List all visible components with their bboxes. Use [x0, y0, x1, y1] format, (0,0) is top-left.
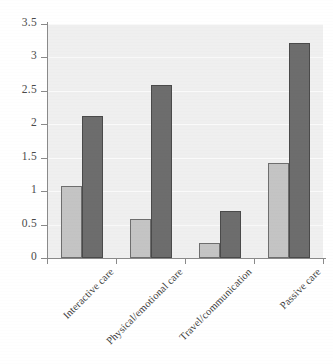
- y-axis-tick: [41, 225, 47, 226]
- gridline: [47, 91, 323, 92]
- y-axis-tick: [41, 91, 47, 92]
- y-axis-tick-label: 0: [31, 251, 37, 263]
- x-axis-tick: [116, 258, 117, 264]
- y-axis-tick-label: 3.5: [22, 17, 37, 29]
- bar: [199, 243, 220, 258]
- x-axis-category-label: Travel/communication: [177, 266, 254, 343]
- y-axis-tick-label: 0.5: [22, 218, 37, 230]
- bar: [61, 186, 82, 258]
- x-axis-tick: [47, 258, 48, 264]
- bar: [151, 85, 172, 258]
- y-axis-tick-label: 2: [31, 117, 37, 129]
- bar: [220, 211, 241, 258]
- y-axis-tick: [41, 124, 47, 125]
- y-axis-line: [47, 22, 48, 260]
- x-axis-category-label: Passive care: [277, 266, 323, 312]
- y-axis-tick-label: 1.5: [22, 151, 37, 163]
- x-axis-tick: [323, 258, 324, 264]
- y-axis-tick: [41, 57, 47, 58]
- y-axis-tick: [41, 158, 47, 159]
- x-axis-tick: [254, 258, 255, 264]
- x-axis-line: [41, 258, 326, 259]
- y-axis-tick-label: 2.5: [22, 84, 37, 96]
- bar-chart: 00.511.522.533.5 Interactive carePhysica…: [0, 0, 333, 364]
- x-axis-tick: [185, 258, 186, 264]
- y-axis-tick-label: 1: [31, 184, 37, 196]
- bar: [289, 43, 310, 258]
- y-axis-tick: [41, 191, 47, 192]
- x-axis-category-label: Physical/emotional care: [104, 266, 185, 347]
- y-axis-tick: [41, 24, 47, 25]
- bar: [130, 219, 151, 258]
- bar: [82, 116, 103, 258]
- x-axis-category-label: Interactive care: [60, 266, 115, 321]
- y-axis-tick-label: 3: [31, 50, 37, 62]
- gridline: [47, 24, 323, 25]
- gridline: [47, 57, 323, 58]
- bar: [268, 163, 289, 258]
- plot-area: [47, 24, 323, 258]
